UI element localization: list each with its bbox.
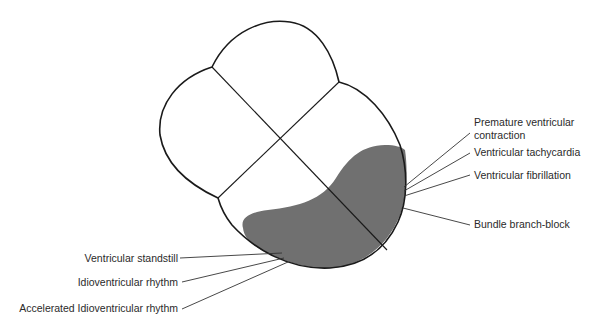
label-text: Bundle branch-block	[474, 218, 570, 231]
label-text: Ventricular standstill	[85, 252, 178, 265]
shaded-ventricle-region	[242, 145, 406, 268]
label-ventricular-fibrillation: Ventricular fibrillation	[474, 169, 571, 182]
leader-standstill	[180, 253, 282, 258]
label-ventricular-standstill: Ventricular standstill	[85, 252, 178, 265]
label-text: Premature ventricular	[474, 116, 574, 129]
leader-pvc	[404, 133, 470, 187]
label-text: Accelerated Idioventricular rhythm	[19, 302, 178, 315]
leader-bbb	[403, 208, 470, 225]
label-premature-ventricular-contraction: Premature ventricular contraction	[474, 116, 574, 142]
label-text: contraction	[474, 129, 574, 142]
label-bundle-branch-block: Bundle branch-block	[474, 218, 570, 231]
leader-idio	[182, 258, 284, 282]
label-idioventricular-rhythm: Idioventricular rhythm	[78, 276, 178, 289]
label-text: Ventricular tachycardia	[474, 146, 580, 159]
leader-accel	[182, 262, 288, 309]
label-text: Idioventricular rhythm	[78, 276, 178, 289]
label-text: Ventricular fibrillation	[474, 169, 571, 182]
label-accelerated-idioventricular-rhythm: Accelerated Idioventricular rhythm	[19, 302, 178, 315]
label-ventricular-tachycardia: Ventricular tachycardia	[474, 146, 580, 159]
